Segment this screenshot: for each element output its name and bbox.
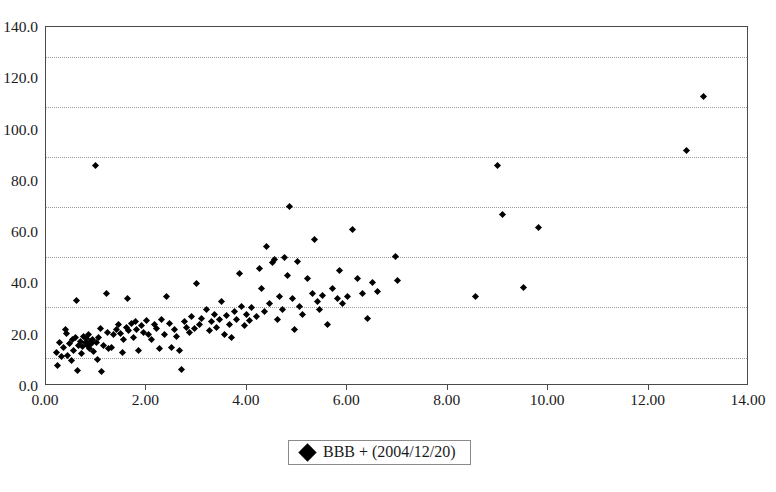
- data-point: [231, 308, 238, 315]
- data-point: [148, 336, 155, 343]
- data-point: [173, 332, 180, 339]
- y-axis-tick-label: 20.0: [0, 327, 38, 343]
- data-point: [304, 275, 311, 282]
- data-point: [324, 321, 331, 328]
- data-point: [163, 293, 170, 300]
- x-axis-tick: [547, 385, 548, 390]
- data-point: [216, 316, 223, 323]
- data-point: [236, 270, 243, 277]
- data-point: [354, 275, 361, 282]
- data-point: [246, 317, 253, 324]
- gridline: [46, 307, 747, 308]
- data-point: [683, 147, 690, 154]
- x-axis-tick-label: 2.00: [110, 392, 180, 408]
- data-point: [74, 367, 81, 374]
- data-point: [211, 311, 218, 318]
- x-axis-tick-label: 8.00: [412, 392, 482, 408]
- data-point: [53, 362, 60, 369]
- data-point: [97, 325, 104, 332]
- data-point: [309, 290, 316, 297]
- data-point: [120, 336, 127, 343]
- x-axis-tick: [346, 385, 347, 390]
- data-point: [256, 264, 263, 271]
- data-point: [394, 277, 401, 284]
- legend-series-label: BBB + (2004/12/20): [323, 444, 456, 460]
- data-point: [218, 298, 225, 305]
- y-axis-tick-label: 100.0: [0, 122, 38, 138]
- data-point: [78, 350, 85, 357]
- data-point: [344, 293, 351, 300]
- data-point: [98, 368, 105, 375]
- data-point: [329, 285, 336, 292]
- data-point: [238, 303, 245, 310]
- data-point: [90, 348, 97, 355]
- data-point: [119, 349, 126, 356]
- gridline: [46, 358, 747, 359]
- data-point: [314, 298, 321, 305]
- data-point: [153, 325, 160, 332]
- y-axis-tick-label: 40.0: [0, 275, 38, 291]
- data-point: [286, 203, 293, 210]
- data-point: [206, 327, 213, 334]
- x-axis-tick: [145, 385, 146, 390]
- data-point: [193, 280, 200, 287]
- x-axis-tick-label: 12.00: [613, 392, 683, 408]
- data-point: [253, 313, 260, 320]
- gridline: [46, 57, 747, 58]
- data-point: [700, 93, 707, 100]
- data-point: [374, 288, 381, 295]
- gridline: [46, 107, 747, 108]
- data-point: [176, 347, 183, 354]
- data-point: [94, 356, 101, 363]
- data-point: [258, 285, 265, 292]
- data-point: [263, 243, 270, 250]
- data-point: [294, 258, 301, 265]
- gridline: [46, 157, 747, 158]
- data-point: [494, 162, 501, 169]
- y-axis-tick-label: 60.0: [0, 224, 38, 240]
- data-point: [213, 323, 220, 330]
- y-axis-tick-label: 80.0: [0, 173, 38, 189]
- data-point: [198, 314, 205, 321]
- data-point: [241, 322, 248, 329]
- data-point: [60, 344, 67, 351]
- data-point: [276, 293, 283, 300]
- data-point: [125, 327, 132, 334]
- data-point: [289, 295, 296, 302]
- data-point: [296, 303, 303, 310]
- data-point: [283, 272, 290, 279]
- data-point: [124, 295, 131, 302]
- data-point: [359, 290, 366, 297]
- data-point: [143, 317, 150, 324]
- data-point: [336, 267, 343, 274]
- data-point: [499, 211, 506, 218]
- data-point: [223, 312, 230, 319]
- data-point: [349, 226, 356, 233]
- data-point: [311, 236, 318, 243]
- data-point: [155, 345, 162, 352]
- data-point: [273, 316, 280, 323]
- data-point: [73, 297, 80, 304]
- data-point: [135, 347, 142, 354]
- data-point: [472, 293, 479, 300]
- x-axis-tick-label: 4.00: [211, 392, 281, 408]
- plot-area: [45, 26, 748, 385]
- x-axis-tick-label: 10.00: [512, 392, 582, 408]
- data-point: [188, 313, 195, 320]
- data-point: [63, 330, 70, 337]
- data-point: [391, 253, 398, 260]
- data-point: [226, 321, 233, 328]
- data-point: [319, 291, 326, 298]
- data-point: [299, 311, 306, 318]
- data-point: [130, 334, 137, 341]
- data-point: [364, 314, 371, 321]
- data-point: [369, 279, 376, 286]
- y-axis-tick-label: 120.0: [0, 70, 38, 86]
- x-axis-tick-label: 14.00: [713, 392, 776, 408]
- data-point: [165, 320, 172, 327]
- x-axis-tick: [246, 385, 247, 390]
- chart-legend: BBB + (2004/12/20): [288, 440, 471, 465]
- data-point: [519, 284, 526, 291]
- data-point: [178, 366, 185, 373]
- data-point: [228, 334, 235, 341]
